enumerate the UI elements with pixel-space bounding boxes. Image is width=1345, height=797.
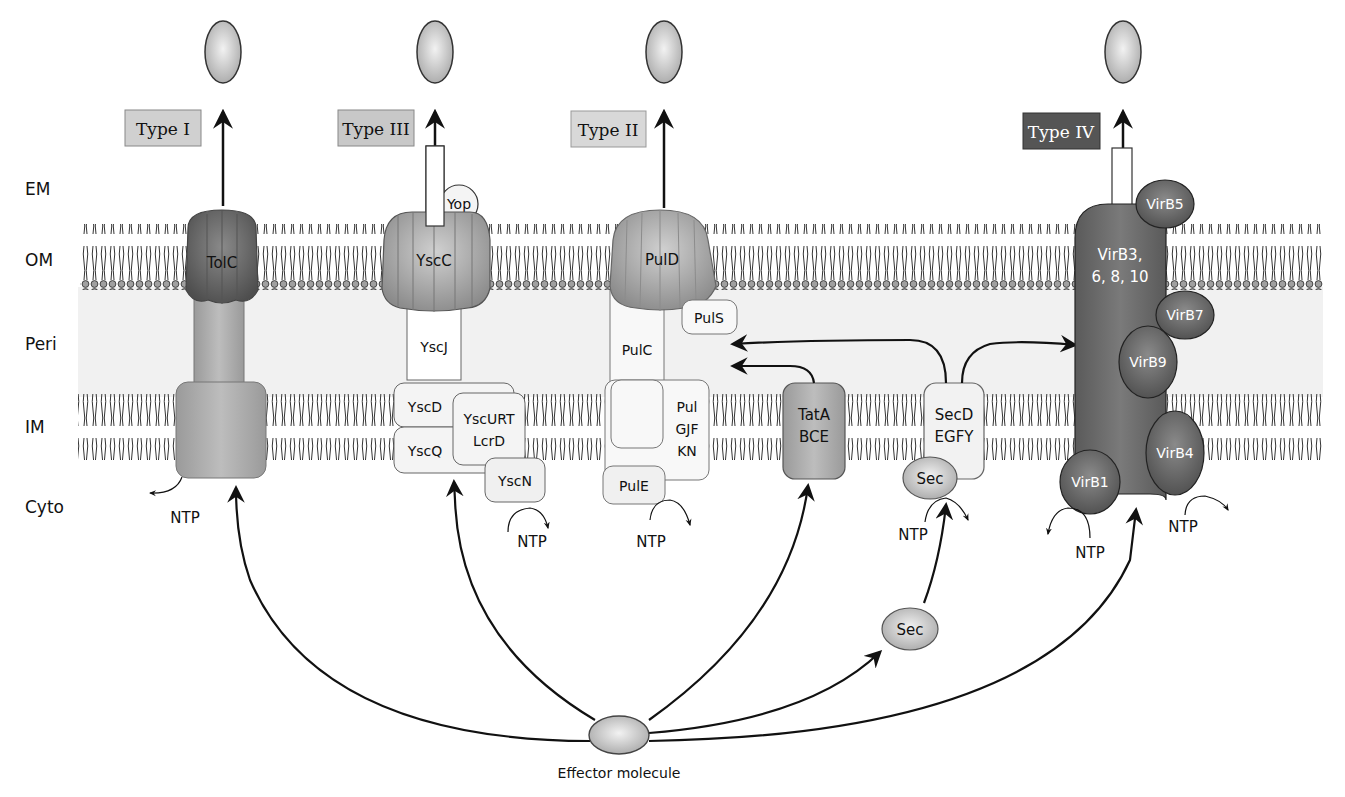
puld-barrel: PulD: [610, 210, 716, 311]
virb9-label: VirB9: [1129, 354, 1166, 370]
virb6-8-10-label: 6, 8, 10: [1091, 268, 1148, 286]
secreted-molecule: [1105, 21, 1141, 83]
ntp-label: NTP: [1168, 518, 1197, 536]
free-sec-label: Sec: [897, 621, 924, 639]
yscj-label: YscJ: [419, 339, 448, 355]
tolc-barrel: TolC: [186, 210, 258, 304]
layer-label-im: IM: [25, 417, 45, 437]
layer-label-em: EM: [25, 179, 50, 199]
secretion-systems-diagram: EM OM Peri IM Cyto Type I TolC NTP Type …: [0, 0, 1345, 797]
type4-label: Type IV: [1028, 122, 1095, 142]
free-sec-to-secyeg-arrow: [924, 505, 946, 603]
yscn-label: YscN: [497, 473, 532, 489]
ntp-label: NTP: [1075, 544, 1104, 562]
yscc-barrel: YscC: [382, 146, 490, 312]
pule-label: PulE: [619, 478, 649, 494]
effector-to-tat-arrow: [649, 486, 808, 720]
yop-label: Yop: [446, 196, 471, 212]
yscd-label: YscD: [407, 399, 442, 415]
pul-label: Pul: [677, 399, 698, 415]
tata-label: TatA: [797, 406, 831, 424]
egfy-label: EGFY: [935, 428, 975, 446]
type3-label: Type III: [342, 119, 409, 139]
yscurt-label: YscURT: [462, 411, 514, 427]
yscc-label: YscC: [415, 252, 452, 270]
lcrd-label: LcrD: [473, 433, 505, 449]
ntp-label: NTP: [898, 526, 927, 544]
effector-routes: Effector molecule: [236, 482, 1136, 781]
tolc-label: TolC: [206, 254, 237, 272]
puld-label: PulD: [645, 251, 679, 269]
secreted-molecule: [417, 21, 453, 83]
type1-peri-tube: [194, 290, 244, 395]
bce-label: BCE: [799, 428, 829, 446]
secreted-molecule: [205, 21, 241, 83]
type2-label: Type II: [578, 120, 639, 140]
gjf-label: GJF: [675, 421, 698, 437]
type1-label: Type I: [136, 119, 190, 139]
type1-im-transporter: [176, 382, 266, 478]
ntp-label: NTP: [636, 533, 665, 551]
ntp-label: NTP: [170, 509, 199, 527]
virb7-label: VirB7: [1166, 307, 1203, 323]
layer-label-cyto: Cyto: [25, 497, 64, 517]
virb5-label: VirB5: [1146, 196, 1183, 212]
pulc-label: PulC: [622, 342, 653, 358]
ntp-label: NTP: [517, 533, 546, 551]
effector-label: Effector molecule: [558, 765, 681, 781]
virb1-label: VirB1: [1071, 474, 1108, 490]
layer-label-om: OM: [25, 250, 53, 270]
effector-molecule: [589, 716, 649, 754]
virb3-label: VirB3,: [1098, 246, 1143, 264]
puls-label: PulS: [694, 310, 724, 326]
virb4-label: VirB4: [1156, 445, 1194, 461]
sec-atpase-label: Sec: [917, 470, 944, 488]
layer-label-peri: Peri: [25, 334, 57, 354]
type4-pilus: [1112, 148, 1132, 210]
secreted-molecule: [646, 21, 682, 83]
yscq-label: YscQ: [407, 443, 443, 459]
kn-label: KN: [677, 443, 697, 459]
effector-to-type1-arrow: [236, 488, 590, 741]
yscurt-box: [453, 393, 525, 465]
secd-label: SecD: [935, 406, 974, 424]
effector-to-type3-arrow: [454, 482, 595, 720]
